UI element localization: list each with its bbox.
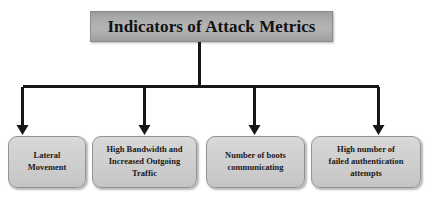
leaf-node-label: Lateral Movement: [28, 150, 67, 173]
leaf-node-label: High Bandwidth and Increased Outgoing Tr…: [106, 144, 182, 179]
arrowhead-icon-3: [249, 125, 261, 135]
leaf-node-high-number-of-failed-authentication-attempts[interactable]: High number of failed authentication att…: [311, 136, 421, 188]
arrowhead-icon-2: [139, 125, 151, 135]
root-node-indicators-of-attack-metrics[interactable]: Indicators of Attack Metrics: [90, 11, 333, 42]
root-node-label: Indicators of Attack Metrics: [107, 18, 315, 35]
arrowhead-icon-1: [17, 125, 29, 135]
leaf-node-label: Number of boots communicating: [225, 150, 286, 173]
leaf-node-label: High number of failed authentication att…: [329, 144, 404, 179]
arrowhead-icon-4: [373, 125, 385, 135]
leaf-node-number-of-boots-communicating[interactable]: Number of boots communicating: [206, 136, 305, 188]
leaf-node-lateral-movement[interactable]: Lateral Movement: [8, 136, 86, 188]
leaf-node-high-bandwidth-and-increased-outgoing-traffic[interactable]: High Bandwidth and Increased Outgoing Tr…: [92, 136, 197, 188]
diagram-canvas: Indicators of Attack Metrics Lateral Mov…: [0, 0, 432, 199]
